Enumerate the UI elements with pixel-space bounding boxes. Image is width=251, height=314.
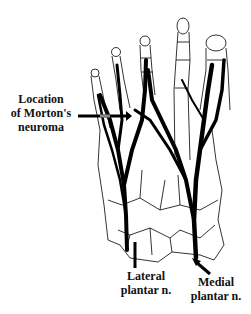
lateral-plantar-nerve-label: Lateral plantar n. <box>114 269 178 297</box>
label-line: Medial <box>183 275 249 289</box>
label-line: of Morton's <box>2 106 80 120</box>
medial-arrow <box>192 258 210 274</box>
foot-nerve-illustration <box>0 0 251 314</box>
mortons-neuroma-label: Location of Morton's neuroma <box>2 92 80 134</box>
medial-plantar-nerve-label: Medial plantar n. <box>183 275 249 303</box>
label-line: plantar n. <box>183 289 249 303</box>
label-line: plantar n. <box>114 283 178 297</box>
label-line: Lateral <box>114 269 178 283</box>
bone-outlines <box>91 18 230 262</box>
label-line: Location <box>2 92 80 106</box>
label-line: neuroma <box>2 120 80 134</box>
